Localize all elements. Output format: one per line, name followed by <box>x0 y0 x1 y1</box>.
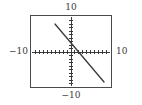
plotted-line-series <box>55 24 104 82</box>
x-axis-max-label: 10 <box>116 47 140 56</box>
plot-frame <box>30 15 112 88</box>
y-axis-min-label: −10 <box>0 91 142 100</box>
coordinate-plane-figure: 10 −10 10 −10 <box>0 0 142 105</box>
x-axis-min-label: −10 <box>4 47 28 56</box>
plot-area <box>31 16 111 87</box>
y-axis-max-label: 10 <box>0 3 142 12</box>
